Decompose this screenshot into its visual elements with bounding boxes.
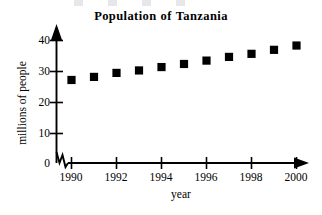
data-point: [202, 57, 210, 65]
data-point-group: [67, 41, 300, 84]
data-point: [225, 53, 233, 61]
data-point: [67, 76, 75, 84]
data-point: [270, 46, 278, 54]
data-point: [247, 50, 255, 58]
axis-break-zigzag: [57, 152, 69, 167]
x-tick-label-1994: 1994: [141, 171, 181, 183]
data-point: [292, 41, 300, 49]
data-point: [157, 63, 165, 71]
x-tick-label-2000: 2000: [276, 171, 316, 183]
x-tick-label-1992: 1992: [96, 171, 136, 183]
data-point: [90, 73, 98, 81]
y-tick-label-10: 10: [24, 127, 50, 139]
data-point: [112, 69, 120, 77]
y-tick-label-20: 20: [24, 96, 50, 108]
x-axis-label: year: [56, 188, 306, 200]
x-tick-label-1996: 1996: [186, 171, 226, 183]
chart-container: PopulationofTanzania millions of people …: [0, 0, 322, 215]
x-tick-label-1990: 1990: [51, 171, 91, 183]
y-tick-label-0: 0: [24, 157, 50, 169]
y-tick-label-40: 40: [24, 34, 50, 46]
x-tick-label-1998: 1998: [231, 171, 271, 183]
y-tick-label-30: 30: [24, 65, 50, 77]
data-point: [180, 60, 188, 68]
data-point: [135, 66, 143, 74]
y-axis-arrowhead: [51, 24, 62, 40]
